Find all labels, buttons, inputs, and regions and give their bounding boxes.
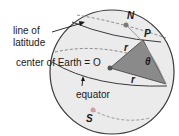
north-pole-point <box>124 23 129 28</box>
label-center: center of Earth = O <box>16 57 101 68</box>
label-latitude: latitude <box>13 37 46 48</box>
earth-diagram: line of latitude center of Earth = O equ… <box>0 0 179 136</box>
south-pole-point <box>91 108 96 113</box>
label-north: N <box>127 10 135 21</box>
label-line-of: line of <box>13 25 40 36</box>
label-p: P <box>144 28 151 39</box>
label-theta: θ <box>145 56 151 67</box>
label-equator: equator <box>76 89 111 100</box>
center-point <box>108 66 113 71</box>
label-south: S <box>86 113 93 124</box>
